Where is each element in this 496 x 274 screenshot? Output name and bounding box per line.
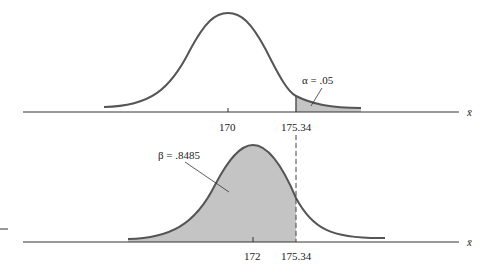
top-axis-label-xbar: x̄ — [466, 106, 472, 118]
beta-label: β = .8485 — [158, 149, 201, 161]
tick-label-175-34: 175.34 — [281, 121, 312, 133]
null-distribution-curve — [104, 13, 361, 108]
bottom-axis-label-xbar: x̄ — [466, 236, 472, 248]
bottom-panel: β = .8485 172 175.34 x̄ — [0, 135, 472, 262]
top-panel: α = .05 170 175.34 x̄ — [23, 13, 472, 133]
alpha-shaded-region — [296, 96, 361, 112]
alpha-label: α = .05 — [302, 74, 334, 86]
beta-shaded-region — [128, 145, 296, 242]
hypothesis-test-figure: α = .05 170 175.34 x̄ β = .8485 172 175.… — [0, 0, 496, 274]
tick-label-172: 172 — [244, 250, 261, 262]
tick-label-175-34-bottom: 175.34 — [281, 250, 312, 262]
tick-label-170: 170 — [219, 121, 236, 133]
